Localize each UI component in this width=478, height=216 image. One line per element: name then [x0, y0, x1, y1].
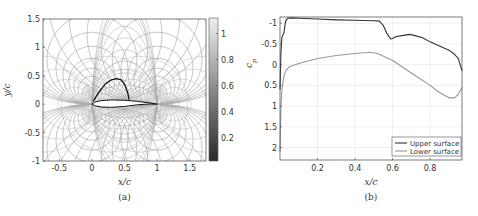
y-tick-label: 2 — [272, 144, 277, 153]
x-axis-label: x/c — [118, 177, 131, 187]
y-tick-label: 0 — [35, 100, 40, 109]
panel-b-caption: (b) — [365, 192, 378, 202]
colorbar: 10.80.60.40.2 — [209, 18, 234, 161]
x-axis-label: x/c — [364, 177, 377, 187]
y-tick-label: 0 — [272, 61, 277, 70]
x-tick-label: 0.5 — [118, 164, 131, 173]
legend: Upper surfaceLower surface — [392, 137, 461, 156]
series-line-upper-surface — [280, 18, 462, 90]
x-tick-label: 0.6 — [386, 164, 399, 173]
colorbar-tick-label: 0.8 — [221, 56, 234, 65]
colorbar-tick-label: 0.2 — [221, 134, 234, 143]
x-tick-label: 0.2 — [311, 164, 324, 173]
x-tick-label: 0.8 — [424, 164, 437, 173]
panel-b-plot: 0.20.40.60.8-1-0.500.511.52x/ccp(b)Upper… — [244, 17, 462, 202]
figure: -0.500.511.51.510.50-0.5-1x/cy/c(a)10.80… — [0, 0, 478, 216]
y-axis-label: y/c — [2, 83, 12, 97]
y-tick-label: 1.5 — [264, 123, 277, 132]
y-tick-label: 0.5 — [264, 81, 277, 90]
contour-lines — [0, 0, 297, 216]
x-tick-label: 1.5 — [183, 164, 196, 173]
legend-label: Lower surface — [410, 148, 459, 156]
x-tick-label: -0.5 — [51, 164, 67, 173]
colorbar-tick-label: 1 — [221, 30, 226, 39]
y-tick-label: -1 — [32, 157, 40, 166]
panel-a-plot: -0.500.511.51.510.50-0.5-1x/cy/c(a) — [0, 0, 297, 216]
y-axis-label: cp — [244, 59, 258, 68]
y-tick-label: 1 — [35, 43, 40, 52]
y-tick-label: 0.5 — [27, 72, 40, 81]
x-tick-label: 0 — [89, 164, 94, 173]
y-tick-label: -0.5 — [24, 129, 40, 138]
y-tick-label: 1 — [272, 102, 277, 111]
x-tick-label: 0.4 — [349, 164, 362, 173]
panel-a-caption: (a) — [118, 192, 130, 202]
x-tick-label: 1 — [155, 164, 160, 173]
y-tick-label: -1 — [269, 19, 277, 28]
colorbar-tick-label: 0.6 — [221, 82, 234, 91]
colorbar-tick-label: 0.4 — [221, 108, 234, 117]
y-tick-label: -0.5 — [261, 40, 277, 49]
legend-label: Upper surface — [410, 140, 459, 148]
y-tick-label: 1.5 — [27, 15, 40, 24]
